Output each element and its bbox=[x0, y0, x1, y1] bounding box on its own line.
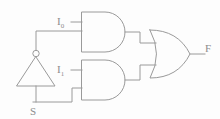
circuit-diagram-canvas: I0 I1 S F bbox=[0, 0, 220, 119]
wire-notout-to-and-top bbox=[36, 31, 82, 50]
or-gate bbox=[150, 30, 190, 78]
label-input-0: I0 bbox=[57, 16, 64, 30]
and-gate-bottom bbox=[82, 60, 125, 100]
label-select: S bbox=[30, 106, 36, 117]
label-input-0-subscript: 0 bbox=[61, 22, 65, 30]
wire-s-to-and-bottom bbox=[33, 88, 82, 102]
not-gate-bubble-icon bbox=[33, 50, 39, 56]
label-output: F bbox=[205, 43, 211, 54]
label-input-1-subscript: 1 bbox=[61, 70, 65, 78]
logic-circuit-svg bbox=[0, 0, 220, 119]
not-gate-triangle bbox=[17, 57, 55, 86]
and-gate-top bbox=[82, 12, 125, 52]
label-input-1: I1 bbox=[57, 64, 64, 78]
